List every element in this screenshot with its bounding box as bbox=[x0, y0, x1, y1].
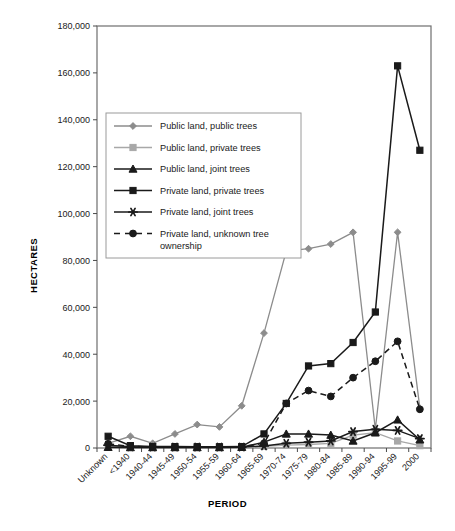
data-point-square bbox=[261, 431, 267, 437]
data-point-circle bbox=[350, 374, 357, 381]
x-axis-tick-label-text: 2000 bbox=[400, 451, 421, 472]
y-axis-tick-label: 60,000 bbox=[62, 303, 90, 313]
legend-label: Private land, joint trees bbox=[160, 207, 254, 217]
data-point-square bbox=[395, 438, 401, 444]
data-point-circle bbox=[130, 230, 137, 237]
legend-label: Public land, joint trees bbox=[160, 164, 250, 174]
chart-figure: HECTARES PERIOD 020,00040,00060,00080,00… bbox=[0, 0, 455, 531]
data-point-square bbox=[130, 187, 136, 193]
chart-legend: Public land, public treesPublic land, pr… bbox=[106, 113, 301, 258]
y-axis-tick-label: 160,000 bbox=[57, 68, 90, 78]
y-axis-tick-label: 140,000 bbox=[57, 115, 90, 125]
data-point-square bbox=[150, 443, 156, 449]
x-axis-tick-label: 2000 bbox=[400, 451, 421, 472]
data-point-square bbox=[372, 309, 378, 315]
data-point-circle bbox=[305, 387, 312, 394]
data-point-square bbox=[127, 443, 133, 449]
data-point-circle bbox=[416, 406, 423, 413]
legend-label: Public land, public trees bbox=[160, 121, 257, 131]
data-point-square bbox=[239, 443, 245, 449]
data-point-square bbox=[350, 339, 356, 345]
legend-label-cont: ownership bbox=[160, 241, 202, 251]
data-point-square bbox=[283, 400, 289, 406]
line-chart-plot: 020,00040,00060,00080,000100,000120,0001… bbox=[0, 0, 455, 531]
legend-label: Private land, private trees bbox=[160, 186, 265, 196]
data-point-square bbox=[305, 363, 311, 369]
y-axis-tick-label: 40,000 bbox=[62, 350, 90, 360]
y-axis-tick-label: 20,000 bbox=[62, 397, 90, 407]
data-point-square bbox=[130, 144, 136, 150]
data-point-square bbox=[417, 147, 423, 153]
data-point-circle bbox=[261, 440, 268, 447]
data-point-square bbox=[105, 433, 111, 439]
data-point-square bbox=[172, 443, 178, 449]
y-axis-tick-label: 100,000 bbox=[57, 209, 90, 219]
y-axis-tick-label: 0 bbox=[85, 443, 90, 453]
legend-label: Public land, private trees bbox=[160, 143, 261, 153]
y-axis-tick-label: 120,000 bbox=[57, 162, 90, 172]
data-point-square bbox=[216, 444, 222, 450]
data-point-square bbox=[395, 63, 401, 69]
legend-label: Private land, unknown tree bbox=[160, 229, 269, 239]
x-axis-tick-label: Unknown bbox=[76, 451, 110, 485]
x-axis-tick-label-text: Unknown bbox=[76, 451, 110, 485]
y-axis-tick-label: 80,000 bbox=[62, 256, 90, 266]
data-point-circle bbox=[105, 440, 112, 447]
data-point-circle bbox=[394, 338, 401, 345]
y-axis-tick-label: 180,000 bbox=[57, 21, 90, 31]
data-point-square bbox=[328, 361, 334, 367]
data-point-circle bbox=[372, 358, 379, 365]
data-point-square bbox=[194, 444, 200, 450]
data-point-circle bbox=[327, 393, 334, 400]
